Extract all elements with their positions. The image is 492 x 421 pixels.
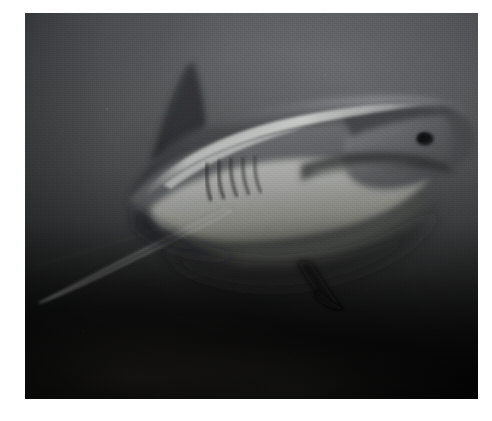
page-root — [0, 0, 492, 421]
vignette-overlay — [25, 13, 478, 399]
photograph — [25, 13, 478, 399]
